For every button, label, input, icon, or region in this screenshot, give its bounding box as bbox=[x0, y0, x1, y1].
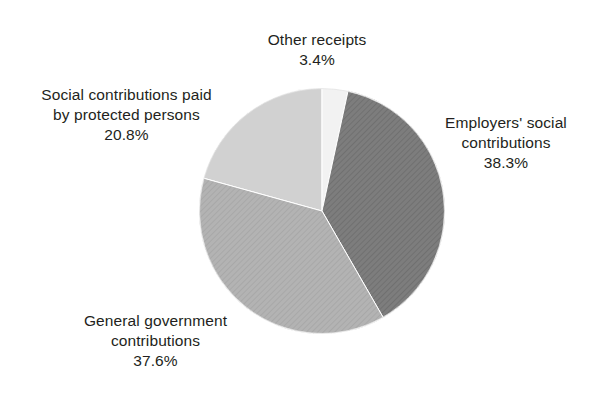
pie-label-other-receipts-value: 3.4% bbox=[232, 50, 402, 70]
pie-label-other-receipts: Other receipts 3.4% bbox=[232, 30, 402, 70]
pie-label-general-government-line1: General government bbox=[48, 311, 263, 331]
pie-label-general-government-line2: contributions bbox=[48, 331, 263, 351]
pie-label-general-government: General government contributions 37.6% bbox=[48, 311, 263, 371]
pie-label-employers: Employers' social contributions 38.3% bbox=[424, 113, 588, 173]
pie-chart-figure: Other receipts 3.4% Employers' social co… bbox=[0, 0, 591, 400]
pie-label-general-government-value: 37.6% bbox=[48, 351, 263, 371]
pie-label-social-contributions-value: 20.8% bbox=[14, 125, 239, 145]
pie-label-employers-line2: contributions bbox=[424, 133, 588, 153]
pie-label-employers-line1: Employers' social bbox=[424, 113, 588, 133]
pie-label-social-contributions-line1: Social contributions paid bbox=[14, 85, 239, 105]
pie-label-employers-value: 38.3% bbox=[424, 153, 588, 173]
pie-label-other-receipts-line1: Other receipts bbox=[232, 30, 402, 50]
pie-label-social-contributions-line2: by protected persons bbox=[14, 105, 239, 125]
pie-label-social-contributions: Social contributions paid by protected p… bbox=[14, 85, 239, 145]
